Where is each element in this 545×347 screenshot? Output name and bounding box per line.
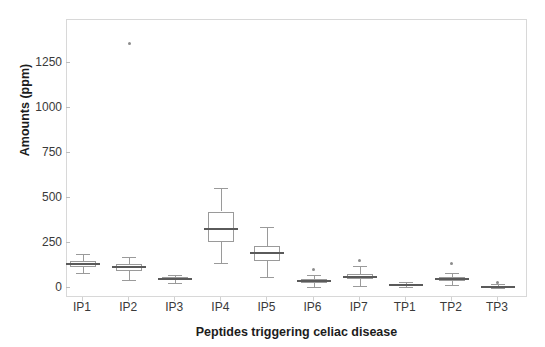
x-tick-label: TP3 xyxy=(467,300,527,314)
x-tick-mark xyxy=(82,297,83,301)
x-axis-label: Peptides triggering celiac disease xyxy=(66,325,527,339)
median-line xyxy=(389,284,423,286)
median-line xyxy=(297,280,331,282)
whisker-cap-lower xyxy=(399,287,413,288)
median-line xyxy=(343,276,377,278)
y-tick-mark xyxy=(66,62,70,63)
x-tick-mark xyxy=(174,297,175,301)
x-tick-mark xyxy=(128,297,129,301)
y-tick-mark xyxy=(66,107,70,108)
whisker-upper xyxy=(267,227,268,246)
whisker-cap-upper xyxy=(260,227,274,228)
outlier-point xyxy=(312,268,315,271)
whisker-cap-lower xyxy=(445,285,459,286)
y-axis-ticks: 025050075010001250 xyxy=(0,0,62,347)
median-line xyxy=(250,252,284,254)
outlier-point xyxy=(450,262,453,265)
whisker-lower xyxy=(267,261,268,277)
outlier-point xyxy=(358,259,361,262)
whisker-upper xyxy=(360,266,361,273)
y-tick-mark xyxy=(66,152,70,153)
whisker-cap-lower xyxy=(122,280,136,281)
y-tick-label: 250 xyxy=(20,235,62,249)
y-tick-label: 500 xyxy=(20,190,62,204)
whisker-cap-lower xyxy=(491,288,505,289)
x-tick-mark xyxy=(359,297,360,301)
x-tick-mark xyxy=(266,297,267,301)
whisker-upper xyxy=(221,188,222,212)
median-line xyxy=(158,278,192,280)
whisker-lower xyxy=(129,271,130,280)
y-tick-mark xyxy=(66,197,70,198)
median-line xyxy=(435,278,469,280)
median-line xyxy=(481,286,515,288)
whisker-cap-lower xyxy=(76,273,90,274)
whisker-cap-lower xyxy=(214,263,228,264)
y-tick-label: 750 xyxy=(20,145,62,159)
median-line xyxy=(112,266,146,268)
whisker-cap-lower xyxy=(260,277,274,278)
whisker-cap-lower xyxy=(168,283,182,284)
whisker-cap-lower xyxy=(353,286,367,287)
whisker-cap-upper xyxy=(307,275,321,276)
x-tick-mark xyxy=(405,297,406,301)
whisker-lower xyxy=(221,242,222,263)
whisker-cap-upper xyxy=(214,188,228,189)
plot-area xyxy=(66,19,527,297)
whisker-cap-upper xyxy=(445,273,459,274)
x-tick-mark xyxy=(313,297,314,301)
whisker-cap-upper xyxy=(122,257,136,258)
x-tick-mark xyxy=(497,297,498,301)
y-tick-label: 0 xyxy=(20,280,62,294)
x-tick-mark xyxy=(451,297,452,301)
median-line xyxy=(204,228,238,230)
x-tick-mark xyxy=(220,297,221,301)
outlier-point xyxy=(128,42,131,45)
y-tick-label: 1250 xyxy=(20,55,62,69)
whisker-cap-upper xyxy=(353,266,367,267)
whisker-cap-upper xyxy=(76,254,90,255)
whisker-cap-upper xyxy=(168,275,182,276)
median-line xyxy=(66,263,100,265)
y-tick-mark xyxy=(66,287,70,288)
whisker-upper xyxy=(83,254,84,262)
whisker-cap-lower xyxy=(307,287,321,288)
y-tick-label: 1000 xyxy=(20,100,62,114)
y-tick-mark xyxy=(66,242,70,243)
box-plot-figure: Amounts (ppm) 025050075010001250 IP1IP2I… xyxy=(0,0,545,347)
whisker-lower xyxy=(360,279,361,286)
